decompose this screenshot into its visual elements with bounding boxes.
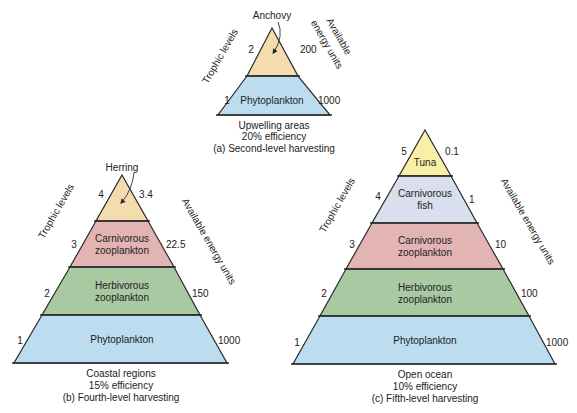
caption-line: Upwelling areas — [238, 120, 309, 131]
caption-title: (b) Fourth-level harvesting — [63, 392, 180, 403]
trophic-level-number: 5 — [401, 146, 407, 157]
energy-value: 3.4 — [139, 189, 153, 200]
trophic-level-number: 3 — [71, 239, 77, 250]
layer-label: Carnivorous — [398, 235, 452, 246]
axis-label-available-energy-units: Available energy units — [180, 196, 238, 286]
pyramid-c: Tuna Carnivorous fish Carnivorous zoopla… — [291, 130, 569, 404]
layer-label: zooplankton — [95, 245, 149, 256]
axis-label-available-energy-units: Available energy units — [499, 176, 557, 266]
trophic-level-number: 4 — [375, 191, 381, 202]
layer-label: Carnivorous — [95, 233, 149, 244]
trophic-level-number: 1 — [17, 335, 23, 346]
caption-line: 15% efficiency — [89, 380, 153, 391]
trophic-level-number: 1 — [294, 337, 300, 348]
energy-value: 10 — [495, 239, 507, 250]
layer-label: zooplankton — [95, 292, 149, 303]
layer-label: Herbivorous — [398, 282, 452, 293]
energy-value: 1 — [469, 194, 475, 205]
trophic-level-number: 2 — [44, 288, 50, 299]
layer-label: Phytoplankton — [90, 334, 153, 345]
axis-label-trophic-levels: Trophic levels — [200, 27, 240, 86]
trophic-level-number: 2 — [248, 44, 254, 55]
layer-label: zooplankton — [398, 294, 452, 305]
layer-label: zooplankton — [398, 247, 452, 258]
layer-label: Phytoplankton — [240, 95, 303, 106]
trophic-level-number: 1 — [224, 95, 230, 106]
layer-label: fish — [417, 200, 433, 211]
caption-line: 20% efficiency — [242, 131, 306, 142]
caption-title: (c) Fifth-level harvesting — [372, 393, 479, 404]
layer-c-tuna — [399, 130, 451, 176]
energy-value: 0.1 — [445, 146, 459, 157]
layer-label: Tuna — [414, 157, 437, 168]
layer-label: Herbivorous — [95, 280, 149, 291]
caption-line: Open ocean — [398, 369, 453, 380]
caption-title: (a) Second-level harvesting — [213, 143, 335, 154]
layer-label: Carnivorous — [398, 188, 452, 199]
caption-line: Coastal regions — [86, 368, 155, 379]
axis-label-trophic-levels: Trophic levels — [317, 176, 357, 235]
energy-value: 200 — [300, 44, 317, 55]
energy-pyramids-diagram: Phytoplankton 2 1 200 1000 Trophic level… — [0, 0, 577, 413]
caption-line: 10% efficiency — [393, 381, 457, 392]
layer-b-herbivorous-zooplankton — [42, 267, 200, 315]
pyramid-a: Phytoplankton 2 1 200 1000 Trophic level… — [200, 10, 354, 154]
trophic-level-number: 4 — [98, 189, 104, 200]
energy-value: 1000 — [218, 335, 241, 346]
callout-anchovy: Anchovy — [253, 10, 291, 21]
callout-herring: Herring — [106, 162, 139, 173]
energy-value: 100 — [521, 288, 538, 299]
layer-b-carnivorous-zooplankton — [70, 221, 174, 267]
layer-label: Phytoplankton — [393, 335, 456, 346]
axis-label-trophic-levels: Trophic levels — [36, 182, 76, 241]
energy-value: 150 — [192, 288, 209, 299]
trophic-level-number: 3 — [349, 239, 355, 250]
energy-value: 1000 — [546, 337, 569, 348]
layer-a-anchovy — [247, 28, 298, 76]
energy-value: 1000 — [318, 95, 341, 106]
pyramid-b: Carnivorous zooplankton Herbivorous zoop… — [12, 162, 241, 403]
trophic-level-number: 2 — [321, 288, 327, 299]
layer-c-carnivorous-zooplankton — [346, 223, 503, 269]
energy-value: 22.5 — [166, 239, 186, 250]
